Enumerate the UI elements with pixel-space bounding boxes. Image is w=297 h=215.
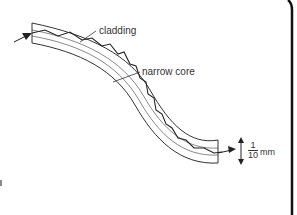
- scale-fraction: 1 10: [248, 141, 258, 160]
- page-frame-edge: [288, 0, 292, 215]
- cladding-label: cladding: [99, 26, 136, 36]
- input-arrow-icon: [22, 33, 32, 40]
- scale-arrow-up-icon: [238, 137, 244, 143]
- cladding-leader-line: [80, 31, 96, 42]
- output-arrow-icon: [228, 146, 236, 153]
- core-top-edge: [32, 30, 218, 148]
- cladding-top-edge: [32, 23, 218, 141]
- light-ray-path: [32, 30, 222, 153]
- fiber-diagram: [0, 0, 297, 215]
- scale-arrow-down-icon: [238, 159, 244, 165]
- scale-denominator: 10: [248, 151, 258, 160]
- narrow-core-label: narrow core: [142, 67, 195, 77]
- scan-artifact-mark: [0, 180, 2, 186]
- scale-unit: mm: [260, 147, 275, 157]
